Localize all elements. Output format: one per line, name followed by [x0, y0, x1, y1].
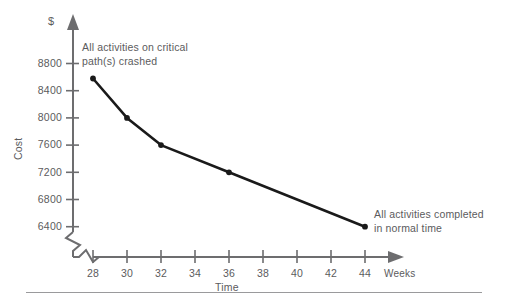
y-tick-label-8800: 8800 — [26, 57, 62, 70]
x-tick-label-30: 30 — [113, 267, 141, 280]
annotation-normal-time-line2: in normal time — [374, 221, 484, 235]
y-axis-break-zigzag — [66, 232, 80, 257]
x-tick-label-40: 40 — [283, 267, 311, 280]
y-tick-label-8400: 8400 — [26, 84, 62, 97]
annotation-crashed: All activities on critical path(s) crash… — [82, 40, 188, 68]
cost-curve — [93, 79, 365, 227]
cost-time-chart-figure: $ Cost 8800 8400 8000 7600 7200 6800 640… — [0, 0, 506, 304]
annotation-crashed-line2: path(s) crashed — [82, 54, 188, 68]
data-point-28w — [90, 76, 96, 82]
x-tick-label-32: 32 — [147, 267, 175, 280]
footer-divider-rule — [26, 292, 482, 293]
x-tick-label-28: 28 — [79, 267, 107, 280]
y-tick-label-7200: 7200 — [26, 166, 62, 179]
x-tick-label-38: 38 — [249, 267, 277, 280]
y-axis-name-label: Cost — [12, 138, 25, 160]
x-tick-label-42: 42 — [317, 267, 345, 280]
data-point-30w — [124, 115, 130, 121]
chart-canvas — [0, 0, 506, 304]
annotation-crashed-line1: All activities on critical — [82, 40, 188, 54]
data-point-32w — [158, 142, 164, 148]
data-point-markers — [90, 76, 368, 230]
y-tick-label-6400: 6400 — [26, 220, 62, 233]
annotation-normal-time-line1: All activities completed — [374, 207, 484, 221]
y-tick-label-6800: 6800 — [26, 193, 62, 206]
y-axis-arrowhead — [67, 14, 79, 30]
data-point-44w — [362, 224, 368, 230]
data-point-36w — [226, 169, 232, 175]
y-tick-label-8000: 8000 — [26, 111, 62, 124]
annotation-normal-time: All activities completed in normal time — [374, 207, 484, 235]
x-tick-label-34: 34 — [181, 267, 209, 280]
y-axis-unit-label: $ — [48, 15, 54, 29]
x-axis-unit-label: Weeks — [384, 268, 415, 281]
x-tick-label-44: 44 — [351, 267, 379, 280]
y-tick-label-7600: 7600 — [26, 138, 62, 151]
x-tick-label-36: 36 — [215, 267, 243, 280]
x-axis-arrowhead — [388, 251, 404, 263]
